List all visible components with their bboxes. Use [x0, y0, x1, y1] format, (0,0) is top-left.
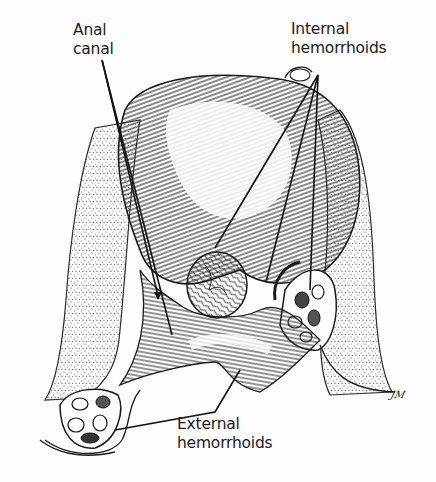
- label-anal-canal: Anal canal: [73, 21, 114, 59]
- anatomy-illustration: [0, 0, 436, 482]
- internal-hemorrhoid-mass: [187, 252, 247, 318]
- label-external-line2: hemorrhoids: [177, 434, 272, 453]
- label-anal-canal-line2: canal: [73, 40, 114, 59]
- label-anal-canal-line1: Anal: [73, 21, 114, 40]
- label-internal-line1: Internal: [291, 20, 386, 39]
- hemorrhoid-diagram: Anal canal Internal hemorrhoids External…: [0, 0, 436, 482]
- label-internal-line2: hemorrhoids: [291, 39, 386, 58]
- artist-signature: JM: [390, 389, 407, 400]
- rectal-ampulla: [119, 67, 360, 284]
- label-external-line1: External: [177, 415, 272, 434]
- label-internal-hemorrhoids: Internal hemorrhoids: [291, 20, 386, 58]
- label-external-hemorrhoids: External hemorrhoids: [177, 415, 272, 453]
